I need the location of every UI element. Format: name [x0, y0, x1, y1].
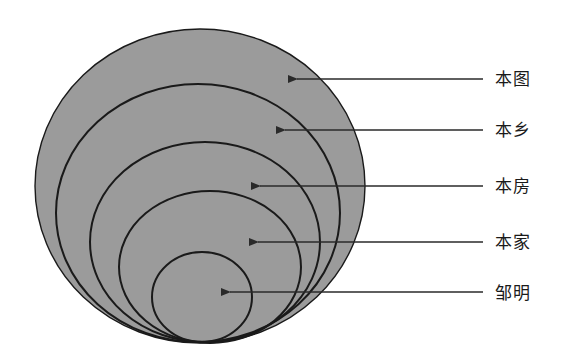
label-benxiang: 本乡 [495, 120, 531, 140]
label-bentu: 本图 [495, 69, 531, 89]
label-benjia: 本家 [495, 232, 531, 252]
label-zouming: 邹明 [495, 283, 531, 303]
label-benfang: 本房 [495, 176, 531, 196]
nested-circle-diagram [0, 0, 561, 362]
